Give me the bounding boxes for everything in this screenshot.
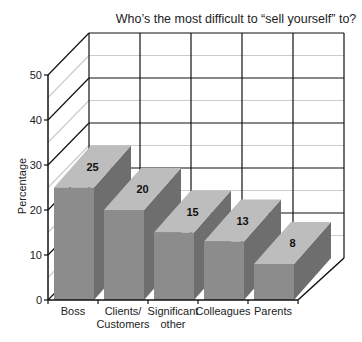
bar-front: [204, 242, 244, 301]
data-label: 15: [186, 206, 198, 218]
x-tick-label: Parents: [254, 305, 292, 317]
data-label: 13: [236, 215, 248, 227]
bar-front: [54, 188, 94, 301]
major-gridline: [48, 33, 89, 75]
x-tick-label: Significantother: [148, 305, 199, 330]
x-tick-label: Clients/Customers: [96, 305, 150, 330]
major-gridline: [48, 78, 89, 120]
data-label: 8: [289, 237, 295, 249]
y-tick-label: 40: [30, 114, 42, 126]
y-tick-label: 30: [30, 159, 42, 171]
y-tick-label: 0: [36, 294, 42, 306]
y-tick-label: 10: [30, 249, 42, 261]
bar-front: [104, 210, 144, 300]
minor-gridline: [48, 101, 89, 143]
bar-chart-3d: 252015138 01020304050BossClients/Custome…: [0, 0, 362, 342]
minor-gridline: [48, 56, 89, 98]
x-tick-label: Colleagues: [195, 305, 251, 317]
bar-front: [254, 264, 294, 300]
y-tick-label: 20: [30, 204, 42, 216]
bar-front: [154, 233, 194, 301]
data-label: 25: [86, 161, 98, 173]
data-label: 20: [136, 183, 148, 195]
bars: 252015138: [54, 146, 331, 301]
y-tick-label: 50: [30, 69, 42, 81]
x-tick-label: Boss: [61, 305, 86, 317]
